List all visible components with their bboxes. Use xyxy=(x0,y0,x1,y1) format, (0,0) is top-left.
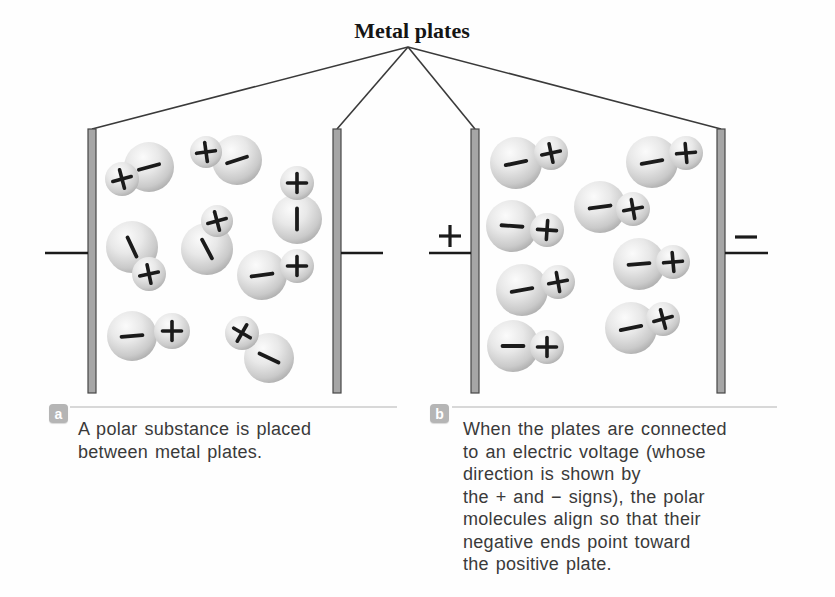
molecule xyxy=(106,221,166,291)
caption-line: the + and − signs), the polar xyxy=(463,486,727,509)
caption-line: A polar substance is placed xyxy=(78,418,311,441)
molecules-panel-b xyxy=(486,136,703,372)
caption-a-text: A polar substance is placedbetween metal… xyxy=(78,418,311,463)
molecule xyxy=(487,320,564,372)
caption-line: negative ends point toward xyxy=(463,531,727,554)
figure: Metal plates a A polar substance is plac… xyxy=(0,0,835,597)
caption-line: between metal plates. xyxy=(78,441,311,464)
molecule xyxy=(237,249,314,300)
molecule xyxy=(613,238,690,290)
caption-line: When the plates are connected xyxy=(463,418,727,441)
figure-svg: Metal plates xyxy=(0,0,835,460)
molecule xyxy=(105,142,174,196)
diagram-title: Metal plates xyxy=(354,18,470,43)
molecule xyxy=(626,136,703,188)
plus-bar xyxy=(685,144,687,163)
molecule xyxy=(574,181,650,233)
caption-line: to an electric voltage (whose xyxy=(463,441,727,464)
molecule xyxy=(107,311,190,361)
panel-b-right-plate xyxy=(717,129,725,393)
molecule xyxy=(272,166,322,244)
caption-line: direction is shown by xyxy=(463,463,727,486)
pointer-line xyxy=(408,47,721,129)
caption-b-divider xyxy=(452,406,777,408)
panel-b-left-plate xyxy=(471,129,479,393)
minus-sign xyxy=(502,225,523,226)
molecule xyxy=(490,136,568,189)
panel-a-right-plate xyxy=(333,129,341,393)
molecules-panel-a xyxy=(105,135,322,383)
molecule xyxy=(181,205,233,275)
caption-b-badge: b xyxy=(430,404,449,423)
pointer-line xyxy=(408,47,475,129)
pointer-line xyxy=(92,47,408,129)
minus-sign xyxy=(629,263,650,265)
terminal-plus-sign xyxy=(439,225,461,247)
plus-bar xyxy=(546,221,547,240)
pointer-lines xyxy=(92,47,721,129)
caption-line: the positive plate. xyxy=(463,553,727,576)
caption-line: molecules align so that their xyxy=(463,508,727,531)
plus-bar xyxy=(672,253,674,272)
molecule xyxy=(486,200,564,252)
caption-b-text: When the plates are connectedto an elect… xyxy=(463,418,727,576)
molecule xyxy=(190,135,262,185)
pointer-line xyxy=(337,47,408,129)
caption-a-badge: a xyxy=(49,404,68,423)
molecule xyxy=(605,302,680,354)
caption-a-divider xyxy=(70,406,397,408)
minus-sign xyxy=(122,335,143,337)
molecule xyxy=(225,316,294,383)
molecule xyxy=(496,264,575,316)
panel-a-left-plate xyxy=(88,129,96,393)
